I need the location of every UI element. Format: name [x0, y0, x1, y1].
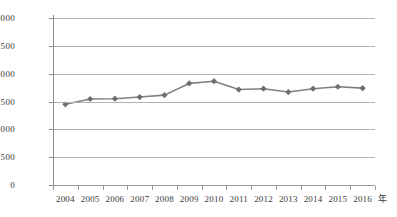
- x-tick-mark-2007: [127, 186, 128, 190]
- data-point-2007: [137, 94, 143, 100]
- x-tick-mark-2011: [226, 186, 227, 190]
- y-axis-line: [53, 15, 54, 188]
- data-point-2011: [236, 86, 242, 92]
- plot-area: [53, 18, 375, 185]
- gridline-500: [53, 157, 375, 158]
- x-tick-mark-2006: [103, 186, 104, 190]
- y-tick-label-2500: 2500: [0, 42, 15, 51]
- gridline-1500: [53, 102, 375, 103]
- y-tick-label-0: 0: [0, 181, 15, 190]
- x-axis-unit-label: 年: [378, 194, 387, 204]
- data-point-2015: [335, 84, 341, 90]
- x-tick-mark-2010: [202, 186, 203, 190]
- x-tick-mark-2012: [251, 186, 252, 190]
- y-tick-label-500: 500: [0, 153, 15, 162]
- gridline-3000: [53, 18, 375, 19]
- gridline-0: [53, 185, 375, 186]
- x-tick-mark-2008: [152, 186, 153, 190]
- x-tick-mark-2016: [350, 186, 351, 190]
- y-tick-mark-500: [49, 157, 53, 158]
- x-tick-mark-2009: [177, 186, 178, 190]
- gridline-2500: [53, 46, 375, 47]
- x-tick-mark-2013: [276, 186, 277, 190]
- x-tick-mark-2015: [325, 186, 326, 190]
- x-tick-mark-2014: [301, 186, 302, 190]
- y-tick-mark-3000: [49, 18, 53, 19]
- data-point-2012: [260, 86, 266, 92]
- gridline-1000: [53, 129, 375, 130]
- y-tick-mark-2000: [49, 74, 53, 75]
- y-tick-label-3000: 3000: [0, 14, 15, 23]
- gridline-2000: [53, 74, 375, 75]
- y-tick-label-2000: 2000: [0, 70, 15, 79]
- y-tick-mark-2500: [49, 46, 53, 47]
- x-tick-mark-2005: [78, 186, 79, 190]
- line-chart: 050010001500200025003000 200420052006200…: [0, 0, 397, 217]
- x-tick-mark-end: [375, 186, 376, 190]
- y-tick-label-1500: 1500: [0, 98, 15, 107]
- data-point-2010: [211, 78, 217, 84]
- y-tick-mark-1000: [49, 129, 53, 130]
- data-point-2016: [360, 85, 366, 91]
- x-tick-label-2016: 2016: [343, 194, 383, 204]
- y-tick-mark-1500: [49, 102, 53, 103]
- data-point-2008: [161, 92, 167, 98]
- data-point-2009: [186, 80, 192, 86]
- data-point-2013: [285, 89, 291, 95]
- x-tick-mark-2004: [53, 186, 54, 190]
- y-tick-label-1000: 1000: [0, 125, 15, 134]
- data-point-2014: [310, 86, 316, 92]
